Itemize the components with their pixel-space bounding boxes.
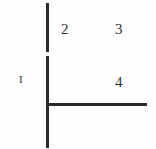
region-label-4: 4: [115, 75, 123, 90]
horizontal-line: [46, 103, 147, 106]
region-label-2: 2: [61, 22, 69, 37]
vertical-line-upper-segment: [46, 3, 49, 52]
region-label-3: 3: [115, 22, 123, 37]
canvas-edge-fade: [0, 0, 156, 149]
region-label-1-roman: I: [19, 74, 23, 85]
figure-canvas: 2 3 I 4: [0, 0, 156, 149]
